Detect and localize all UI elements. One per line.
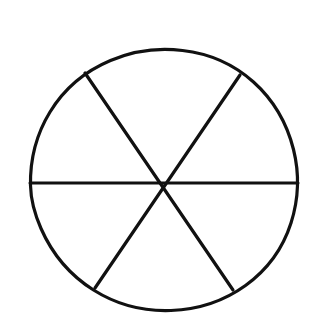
figure-canvas: Circle divided into six equal sectors — [0, 0, 314, 329]
circle-sectors-figure: Circle divided into six equal sectors — [0, 0, 314, 329]
circle-diagram-group — [30, 49, 298, 310]
circle-outline — [30, 49, 297, 310]
